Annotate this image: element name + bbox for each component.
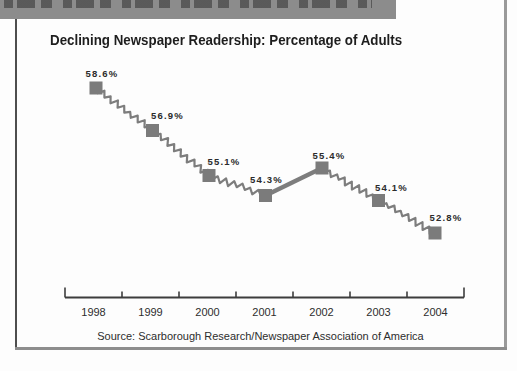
data-point-marker (203, 169, 216, 182)
line-segment-squiggle (322, 168, 379, 201)
data-point-marker (372, 194, 385, 207)
line-segment-squiggle (153, 131, 210, 176)
axis-year-label: 2002 (309, 306, 333, 318)
line-segment-squiggle (96, 88, 153, 131)
data-point-marker (316, 162, 329, 175)
data-point-label: 55.1% (208, 155, 241, 166)
data-point-label: 54.1% (375, 181, 408, 192)
data-point-label: 56.9% (151, 109, 184, 120)
data-point-label: 52.8% (430, 212, 463, 223)
data-point-marker (90, 82, 103, 95)
axis-year-label: 1998 (81, 306, 105, 318)
axis-year-label: 2003 (366, 306, 390, 318)
line-segment-squiggle (379, 201, 436, 235)
source-note: Source: Scarborough Research/Newspaper A… (17, 330, 504, 342)
data-point-marker (259, 189, 272, 202)
data-point-marker (146, 124, 159, 137)
axis-year-label: 1999 (138, 306, 162, 318)
figure: Declining Newspaper Readership: Percenta… (0, 0, 517, 371)
data-point-label: 54.3% (250, 173, 283, 184)
data-point-label: 55.4% (313, 150, 346, 161)
axis-year-label: 2001 (252, 306, 276, 318)
data-point-label: 58.6% (86, 68, 119, 79)
data-point-marker (429, 227, 442, 240)
axis-year-label: 2000 (195, 306, 219, 318)
axis-year-label: 2004 (423, 306, 447, 318)
